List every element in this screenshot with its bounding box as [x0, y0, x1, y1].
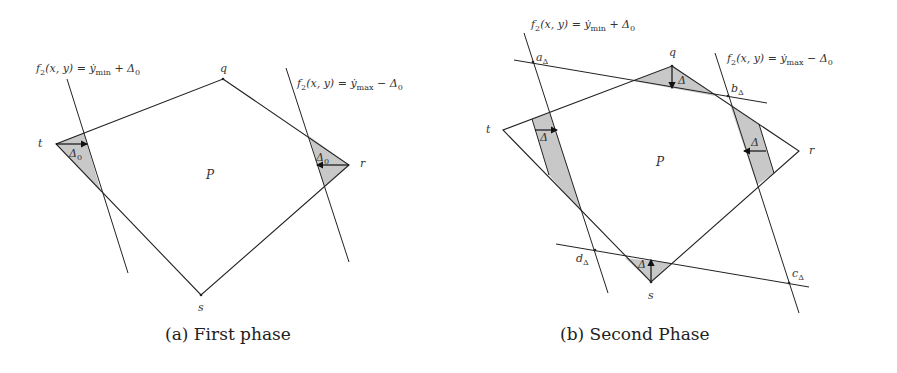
corner-a-label: aΔ: [536, 52, 548, 66]
max-line-label: f2(x, y) = ẏmax − Δ0: [297, 78, 403, 92]
polygon-p-label: P: [206, 169, 214, 181]
corner-b-label: bΔ: [731, 83, 744, 97]
caption-b: (b) Second Phase: [560, 326, 710, 343]
caption-a: (a) First phase: [165, 326, 291, 343]
polygon-p-label: P: [656, 156, 664, 168]
panel-b-figure: [503, 33, 809, 313]
min-line-label: f2(x, y) = ẏmin + Δ0: [36, 63, 140, 77]
panel-a-figure: [56, 68, 349, 296]
shaded-region-left: [532, 113, 582, 212]
min-line: [67, 79, 128, 273]
min-line: [524, 33, 608, 293]
vertex-q-label: q: [669, 47, 676, 58]
vertex-q-label: q: [220, 63, 227, 74]
delta-label-bottom: Δ: [638, 259, 646, 270]
vertex-t-label: t: [38, 138, 42, 149]
delta-label-top: Δ: [678, 75, 686, 86]
vertex-s-label: s: [648, 290, 654, 301]
delta-label-left: Δ: [540, 132, 548, 143]
delta-label-right: Δ: [751, 137, 759, 148]
max-line-label: f2(x, y) = ẏmax − Δ0: [727, 53, 833, 67]
corner-c-label: cΔ: [792, 268, 804, 282]
vertex-t-label: t: [486, 124, 490, 135]
corner-d-label: dΔ: [576, 253, 589, 267]
delta-label-right: Δ0: [316, 152, 329, 166]
vertex-r-label: r: [360, 158, 365, 169]
max-line: [715, 53, 799, 313]
vertex-s-label: s: [198, 302, 204, 313]
shaded-region-top: [633, 66, 715, 96]
min-line-label: f2(x, y) = ẏmin + Δ0: [531, 19, 635, 33]
polygon-p: [56, 79, 349, 295]
vertex-r-label: r: [809, 145, 814, 156]
delta-label-left: Δ0: [69, 148, 82, 162]
